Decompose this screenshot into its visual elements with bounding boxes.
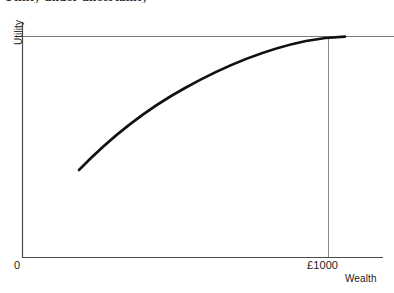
plot-canvas [0, 0, 394, 293]
utility-curve [79, 37, 345, 170]
utility-of-wealth-figure: Utility under uncertainty Utility Wealth… [0, 0, 394, 293]
x-axis-label: Wealth [345, 273, 377, 284]
x-tick-label-1000: £1000 [307, 259, 338, 271]
x-tick-label-origin: 0 [14, 259, 20, 271]
y-axis-label: Utility [13, 11, 24, 55]
